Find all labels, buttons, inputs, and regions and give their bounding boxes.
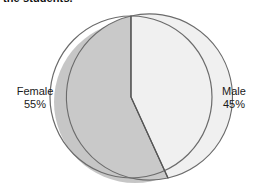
slice-label-male: Male 45% <box>212 85 256 111</box>
chart-area: Female 55% Male 45% <box>0 7 259 195</box>
pie-chart-screenshot: the students. Female 55% Male 45% <box>0 0 259 195</box>
slice-label-male-value: 45% <box>212 98 256 111</box>
slice-label-female-value: 55% <box>4 98 66 111</box>
slice-label-female: Female 55% <box>4 85 66 111</box>
slice-label-male-name: Male <box>212 85 256 98</box>
header-strip: the students. <box>0 0 259 7</box>
slice-label-female-name: Female <box>4 85 66 98</box>
page-title: the students. <box>3 0 73 4</box>
